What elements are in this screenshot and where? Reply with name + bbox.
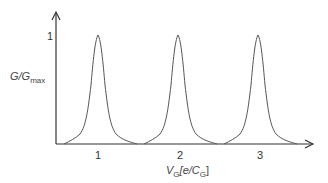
x-axis-label: VG[e/CG] [166, 164, 209, 179]
x-tick-label-2: 2 [177, 149, 183, 161]
peak-curve-1 [64, 35, 137, 144]
peak-curve-2 [144, 35, 217, 144]
y-tick-label-1: 1 [47, 30, 53, 42]
y-axis-label: G/Gmax [10, 70, 45, 85]
peak-curve-3 [224, 35, 297, 144]
conductance-chart: 1 G/Gmax 1 2 3 VG[e/CG] [0, 0, 328, 183]
x-tick-label-3: 3 [257, 149, 263, 161]
x-tick-label-1: 1 [95, 149, 101, 161]
